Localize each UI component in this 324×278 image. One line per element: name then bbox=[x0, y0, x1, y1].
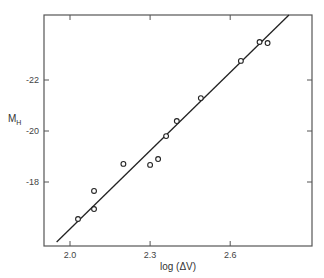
data-point bbox=[257, 40, 262, 45]
data-point bbox=[121, 161, 126, 166]
y-axis-ticks: -22-20-18 bbox=[26, 75, 312, 187]
x-axis-ticks: 2.02.32.6 bbox=[64, 15, 237, 260]
y-axis-label-subscript: H bbox=[16, 119, 21, 126]
data-point bbox=[148, 163, 153, 168]
x-axis-label: log (ΔV) bbox=[160, 261, 196, 272]
data-point bbox=[265, 41, 270, 46]
data-point bbox=[76, 217, 81, 222]
y-tick-label: -18 bbox=[26, 177, 39, 187]
y-tick-label: -20 bbox=[26, 126, 39, 136]
y-axis-label-main: M bbox=[8, 113, 16, 124]
data-point bbox=[238, 58, 243, 63]
y-axis-label: MH bbox=[8, 113, 21, 126]
data-point bbox=[164, 134, 169, 139]
x-tick-label: 2.3 bbox=[144, 250, 157, 260]
y-tick-label: -22 bbox=[26, 75, 39, 85]
data-point bbox=[92, 207, 97, 212]
data-point bbox=[156, 157, 161, 162]
scatter-chart: 2.02.32.6 -22-20-18 log (ΔV) MH bbox=[0, 0, 324, 278]
x-tick-label: 2.0 bbox=[64, 250, 77, 260]
plot-frame bbox=[44, 15, 312, 246]
data-point bbox=[174, 119, 179, 124]
data-point bbox=[198, 96, 203, 101]
x-tick-label: 2.6 bbox=[224, 250, 237, 260]
data-point bbox=[92, 189, 97, 194]
